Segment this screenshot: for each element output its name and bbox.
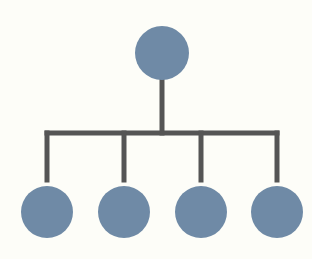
connectors (47, 80, 277, 180)
child-node-1 (21, 186, 73, 238)
child-node-3 (175, 186, 227, 238)
root-node (135, 26, 189, 80)
org-chart-diagram (0, 0, 312, 259)
child-node-2 (98, 186, 150, 238)
child-node-4 (251, 186, 303, 238)
